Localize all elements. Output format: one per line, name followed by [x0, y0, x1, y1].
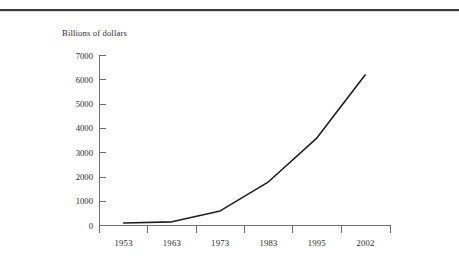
data-series-line [124, 75, 366, 223]
y-tick-labels: 7000 6000 5000 4000 3000 2000 1000 0 [76, 51, 94, 231]
y-tick-label: 1000 [76, 196, 94, 206]
x-tick-label: 2002 [356, 238, 374, 248]
y-tick-label: 6000 [76, 75, 94, 85]
x-tick-label: 1973 [211, 238, 229, 248]
y-tick-label: 0 [89, 221, 94, 231]
x-tick-labels: 1953 1963 1973 1983 1995 2002 [115, 238, 375, 248]
x-tick-label: 1953 [115, 238, 133, 248]
y-tick-label: 3000 [76, 148, 94, 158]
x-tick-marks [100, 226, 391, 234]
x-tick-label: 1963 [163, 238, 181, 248]
y-tick-label: 2000 [76, 172, 94, 182]
y-tick-marks [100, 56, 111, 226]
y-tick-label: 7000 [76, 51, 94, 61]
y-tick-label: 5000 [76, 99, 94, 109]
x-tick-label: 1995 [308, 238, 326, 248]
chart-page: Billions of dollars 7000 6000 5000 4000 … [0, 0, 459, 269]
x-tick-label: 1983 [259, 238, 277, 248]
y-tick-label: 4000 [76, 123, 94, 133]
line-chart: 7000 6000 5000 4000 3000 2000 1000 0 195… [0, 0, 459, 269]
